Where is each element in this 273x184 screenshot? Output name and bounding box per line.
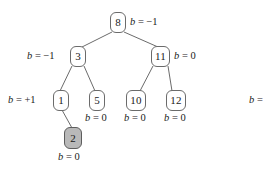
balance-equals: = <box>13 94 24 105</box>
tree-edge-n8-n11 <box>124 32 158 47</box>
tree-edge-n11-n12 <box>168 66 172 91</box>
balance-equals: = <box>32 50 43 61</box>
balance-equals: = <box>254 94 263 105</box>
balance-value: 0 <box>180 112 185 123</box>
balance-equals: = <box>179 50 190 61</box>
balance-value: 0 <box>140 112 145 123</box>
balance-value: 0 <box>74 151 79 162</box>
balance-equals: = <box>90 112 101 123</box>
tree-node-11[interactable]: 11 <box>151 46 170 67</box>
balance-label-n8: b = −1 <box>130 17 158 28</box>
tree-node-key: 12 <box>170 95 181 106</box>
tree-node-8[interactable]: 8 <box>110 12 126 33</box>
tree-node-key: 5 <box>94 95 100 106</box>
tree-node-10[interactable]: 10 <box>126 90 146 111</box>
balance-equals: = <box>129 112 140 123</box>
balance-label-n1: b = +1 <box>8 95 36 106</box>
balance-value: 0 <box>101 112 106 123</box>
balance-label-truncated: b = <box>249 95 263 106</box>
tree-node-5[interactable]: 5 <box>89 90 105 111</box>
tree-edge-n8-n3 <box>82 32 112 47</box>
tree-edge-n3-n5 <box>84 66 95 91</box>
balance-label-n10: b = 0 <box>124 113 146 124</box>
tree-node-key: 2 <box>70 133 76 144</box>
tree-node-key: 1 <box>58 95 64 106</box>
tree-node-key: 11 <box>155 51 166 62</box>
tree-node-3[interactable]: 3 <box>70 46 86 67</box>
tree-node-12[interactable]: 12 <box>166 90 186 111</box>
tree-edge-n11-n10 <box>140 66 153 91</box>
tree-node-key: 10 <box>130 95 141 106</box>
balance-value: −1 <box>43 50 54 61</box>
balance-value: +1 <box>24 94 35 105</box>
balance-label-n11: b = 0 <box>174 51 196 62</box>
tree-node-1[interactable]: 1 <box>53 90 69 111</box>
balance-value: −1 <box>146 16 157 27</box>
balance-label-n3: b = −1 <box>27 51 55 62</box>
balance-equals: = <box>63 151 74 162</box>
balance-value: 0 <box>190 50 195 61</box>
balance-label-n5: b = 0 <box>85 113 107 124</box>
avl-tree-diagram: 83111510122 b = −1b = −1b = 0b = +1b = 0… <box>0 0 273 184</box>
balance-label-n2: b = 0 <box>58 152 80 163</box>
tree-edge-n1-n2 <box>62 110 72 128</box>
balance-equals: = <box>169 112 180 123</box>
tree-node-key: 3 <box>75 51 81 62</box>
balance-label-n12: b = 0 <box>164 113 186 124</box>
balance-equals: = <box>135 16 146 27</box>
tree-edge-n3-n1 <box>60 66 72 91</box>
tree-node-key: 8 <box>115 17 121 28</box>
tree-node-2[interactable]: 2 <box>64 127 82 149</box>
